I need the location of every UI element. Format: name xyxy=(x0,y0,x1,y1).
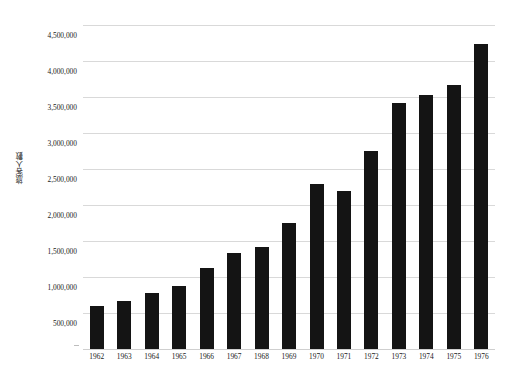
plot-area xyxy=(83,10,495,349)
y-axis-tick-label: 1,500,000 xyxy=(7,247,77,256)
bar xyxy=(255,247,269,349)
x-axis-tick-labels: 1962196319641965196619671968196919701971… xyxy=(83,352,495,368)
x-axis-baseline xyxy=(83,349,495,350)
y-axis-tick-label: 1,000,000 xyxy=(7,283,77,292)
y-axis-tick-label: 500,000 xyxy=(7,319,77,328)
bar xyxy=(474,44,488,349)
bar xyxy=(392,103,406,349)
bar xyxy=(419,95,433,349)
y-axis-tick-label: 3,500,000 xyxy=(7,103,77,112)
bar xyxy=(145,293,159,349)
bar-chart: 旅客人數 500,0001,000,0001,500,0002,000,0002… xyxy=(0,0,514,376)
bar xyxy=(117,301,131,349)
y-axis-tick-labels: 500,0001,000,0001,500,0002,000,0002,500,… xyxy=(5,10,77,349)
bar xyxy=(227,253,241,349)
bar xyxy=(337,191,351,349)
gridline xyxy=(83,61,495,62)
x-axis-tick-label: 1976 xyxy=(458,352,504,361)
bar xyxy=(200,268,214,349)
y-axis-tick-label: 4,500,000 xyxy=(7,31,77,40)
y-axis-tick-label: 3,000,000 xyxy=(7,139,77,148)
y-axis-tick-label: 2,000,000 xyxy=(7,211,77,220)
bar xyxy=(282,223,296,349)
bar xyxy=(172,286,186,349)
axis-origin-tick xyxy=(74,345,79,346)
y-axis-tick-label: 4,000,000 xyxy=(7,67,77,76)
bar xyxy=(310,184,324,349)
gridline xyxy=(83,25,495,26)
bar xyxy=(447,85,461,349)
y-axis-tick-label: 2,500,000 xyxy=(7,175,77,184)
bar xyxy=(90,306,104,349)
bar xyxy=(364,151,378,349)
